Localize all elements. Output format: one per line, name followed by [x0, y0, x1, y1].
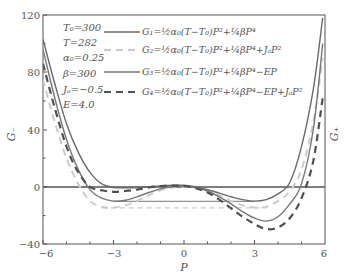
- x-axis-title: P: [179, 261, 188, 274]
- param-beta: β=300: [62, 68, 97, 79]
- param-alpha0: α₀=0.25: [63, 52, 104, 63]
- y-axis-title-right: G₊: [328, 127, 341, 142]
- y-tick-40: 40: [27, 125, 40, 136]
- parameter-list: T₀=300 T=282 α₀=0.25 β=300 Jₐ=−0.5 E=4.0: [61, 22, 104, 110]
- x-tick-6: 6: [321, 248, 327, 259]
- legend-label-g2: G₂=½α₀(T−T₀)P²+¼βP⁴+JₐP²: [142, 44, 281, 55]
- param-e: E=4.0: [62, 99, 95, 110]
- y-tick-0: 0: [34, 182, 40, 193]
- legend-label-g1: G₁=½α₀(T−T₀)P²+¼βP⁴: [142, 26, 256, 37]
- x-tick-neg3: −3: [107, 248, 122, 259]
- param-t: T=282: [63, 37, 97, 48]
- legend: G₁=½α₀(T−T₀)P²+¼βP⁴ G₂=½α₀(T−T₀)P²+¼βP⁴+…: [104, 26, 303, 97]
- x-axis-ticks: [43, 240, 302, 244]
- y-tick-120: 120: [21, 10, 40, 21]
- x-tick-3: 3: [252, 248, 258, 259]
- y-axis-title-left: G₋: [5, 127, 18, 142]
- param-t0: T₀=300: [63, 22, 102, 33]
- y-tick-neg40: −40: [19, 239, 40, 250]
- legend-label-g3: G₃=½α₀(T−T₀)P²+¼βP⁴−EP: [142, 66, 278, 77]
- legend-label-g4: G₄=½α₀(T−T₀)P²+¼βP⁴−EP+JₐP²: [142, 86, 303, 97]
- x-tick-0: 0: [181, 248, 187, 259]
- x-tick-neg6: −6: [39, 248, 54, 259]
- param-ja: Jₐ=−0.5: [61, 84, 103, 95]
- phase-free-energy-chart: 120 80 40 0 −40 −6 −3 0 3 6 P G₋ G₊ T₀=3…: [0, 0, 348, 276]
- y-tick-80: 80: [27, 67, 40, 78]
